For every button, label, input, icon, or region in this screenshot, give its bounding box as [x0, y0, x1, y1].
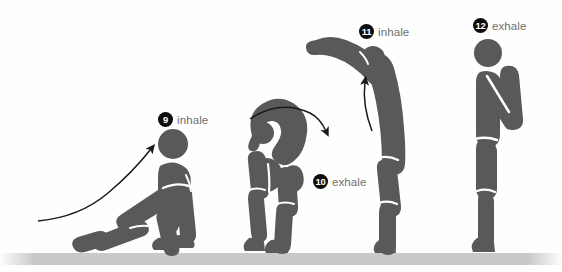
step-badge-9: 9: [158, 112, 173, 127]
forearm-prayer-hands: [500, 66, 523, 130]
figure-step-11: [306, 37, 405, 255]
head: [158, 129, 188, 159]
step-label-9: 9 inhale: [158, 112, 208, 127]
figures-artwork: [0, 0, 562, 272]
foot: [374, 240, 396, 254]
step-badge-11: 11: [359, 24, 374, 39]
step-badge-12: 12: [473, 18, 488, 33]
arrow-to-step-11: [364, 82, 372, 131]
step-breath-11: inhale: [378, 26, 409, 38]
leg-separation-line: [268, 164, 269, 192]
far-foot: [244, 238, 265, 252]
head: [252, 122, 274, 144]
figure-step-10: [244, 99, 308, 254]
front-foot: [152, 238, 174, 251]
step-label-12: 12 exhale: [473, 18, 527, 33]
near-foot: [265, 240, 288, 254]
foot: [472, 238, 495, 253]
step-label-11: 11 inhale: [359, 24, 409, 39]
yoga-sequence-illustration: 9 inhale 10 exhale 11 inhale 12 exhale: [0, 0, 562, 272]
step-breath-10: exhale: [332, 176, 367, 188]
step-label-10: 10 exhale: [313, 174, 367, 189]
figure-step-12: [472, 39, 523, 252]
head: [474, 39, 502, 67]
step-breath-9: inhale: [177, 114, 208, 126]
step-badge-10: 10: [313, 174, 328, 189]
step-breath-12: exhale: [492, 20, 527, 32]
ground-line: [0, 253, 562, 265]
figure-step-9: [72, 129, 196, 256]
